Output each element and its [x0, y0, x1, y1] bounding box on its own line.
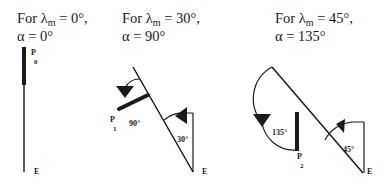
panel-3-angle-label-135: 135° [272, 129, 287, 137]
panel-3-point-subscript: 2 [300, 162, 304, 170]
panel-3-arrowhead-45 [336, 119, 345, 133]
panel-2-angle-label-90: 90° [129, 120, 140, 128]
panel-3-end-label: E [367, 168, 372, 176]
panel-2-point-letter: P [110, 115, 115, 124]
panel-3-angle-arc-135 [253, 67, 295, 150]
panel-1-diagram [22, 47, 26, 172]
panel-3-thick-bar [295, 112, 299, 151]
panel-1-end-label: E [34, 168, 39, 176]
panel-2-point-subscript: 1 [113, 125, 117, 133]
panel-2-arrowhead-90 [116, 86, 134, 98]
panel-2-point-label: P1 [110, 116, 117, 133]
panel-3-point-label: P2 [297, 153, 304, 170]
diagram-canvas [0, 0, 388, 189]
panel-3-diagram [253, 67, 364, 173]
panel-1-point-letter: P [31, 48, 36, 57]
panel-1-point-subscript: 0 [34, 58, 38, 66]
panel-3-angle-label-45: 45° [343, 146, 354, 154]
panel-2-angle-label-30: 30° [177, 136, 188, 144]
panel-2-diagram [116, 67, 193, 172]
panel-3-inclined-line [272, 67, 363, 173]
panel-3-point-letter: P [297, 152, 302, 161]
panel-1-point-label: P0 [31, 49, 38, 66]
panel-2-end-label: E [202, 168, 207, 176]
panel-2-arrowhead-30 [175, 107, 187, 124]
panel-2-thick-bar [119, 95, 148, 109]
panel-3-arrowhead-135 [253, 114, 271, 127]
panel-1-thick-bar [22, 47, 26, 85]
